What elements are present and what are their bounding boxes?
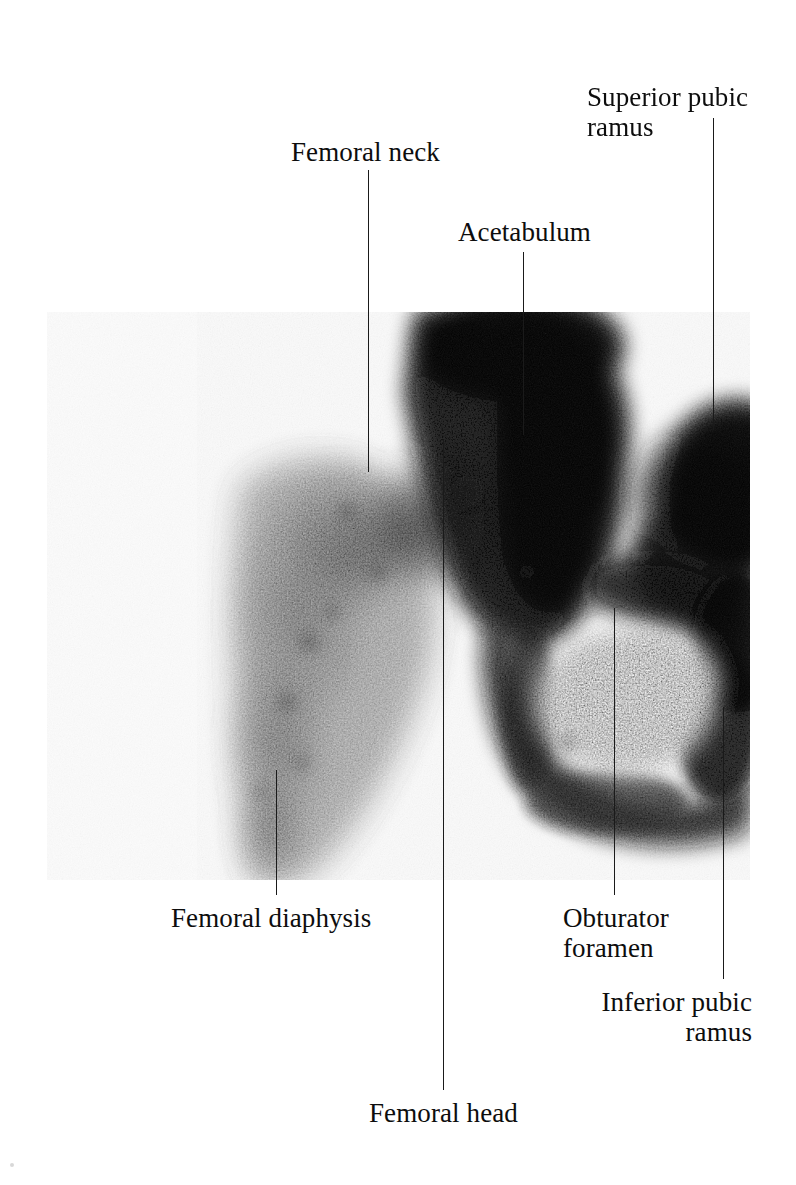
label-femoral-neck: Femoral neck xyxy=(291,137,440,167)
label-femoral-diaphysis: Femoral diaphysis xyxy=(171,903,371,933)
scintigram-image xyxy=(47,312,750,880)
label-obturator-foramen: Obturator foramen xyxy=(563,903,669,963)
leader-femoral-neck xyxy=(368,170,369,472)
label-acetabulum: Acetabulum xyxy=(458,217,591,247)
leader-superior-pubic-ramus xyxy=(713,118,714,430)
plate-vignette xyxy=(47,312,197,880)
label-femoral-head: Femoral head xyxy=(369,1098,518,1128)
leader-inferior-pubic-ramus xyxy=(723,707,724,979)
leader-femoral-diaphysis xyxy=(276,770,277,895)
scintigram-canvas xyxy=(47,312,750,880)
leader-femoral-head xyxy=(443,440,444,1090)
leader-obturator-foramen xyxy=(614,608,615,895)
figure-bone-scintigram: Femoral neck Superior pubic ramus Acetab… xyxy=(0,0,796,1185)
label-superior-pubic-ramus: Superior pubic ramus xyxy=(587,82,748,142)
leader-acetabulum xyxy=(523,252,524,435)
label-inferior-pubic-ramus: Inferior pubic ramus xyxy=(600,987,752,1047)
page-artifact-speck xyxy=(10,1163,14,1167)
